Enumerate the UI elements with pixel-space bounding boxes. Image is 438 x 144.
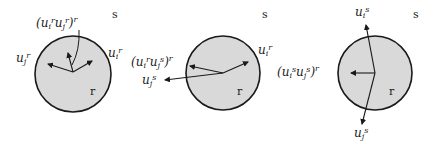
- outer-region-label: s: [413, 8, 419, 21]
- panel-2: s r (uirujs)r uir ujs: [131, 8, 273, 110]
- diagram-canvas: s r (uirujr)r uir ujr s r (uirujs)r uir …: [0, 0, 438, 144]
- ui-label: uis: [355, 5, 369, 20]
- ui-label: uir: [258, 43, 273, 58]
- outer-region-label: s: [112, 8, 118, 21]
- product-label: (uirujr)r: [36, 15, 79, 31]
- panel-3: s r (uisujs)r uis ujs: [277, 5, 419, 141]
- uj-label: ujr: [16, 51, 31, 66]
- ui-label: uir: [108, 46, 123, 61]
- region-r-circle: [35, 36, 111, 112]
- inner-region-label: r: [90, 85, 96, 98]
- product-label: (uisujs)r: [277, 64, 320, 80]
- panel-1: s r (uirujr)r uir ujr: [16, 8, 123, 112]
- uj-label: ujs: [142, 73, 156, 88]
- uj-label: ujs: [354, 126, 368, 141]
- inner-region-label: r: [237, 85, 243, 98]
- inner-region-label: r: [389, 85, 395, 98]
- product-label: (uirujs)r: [131, 54, 174, 70]
- outer-region-label: s: [262, 8, 268, 21]
